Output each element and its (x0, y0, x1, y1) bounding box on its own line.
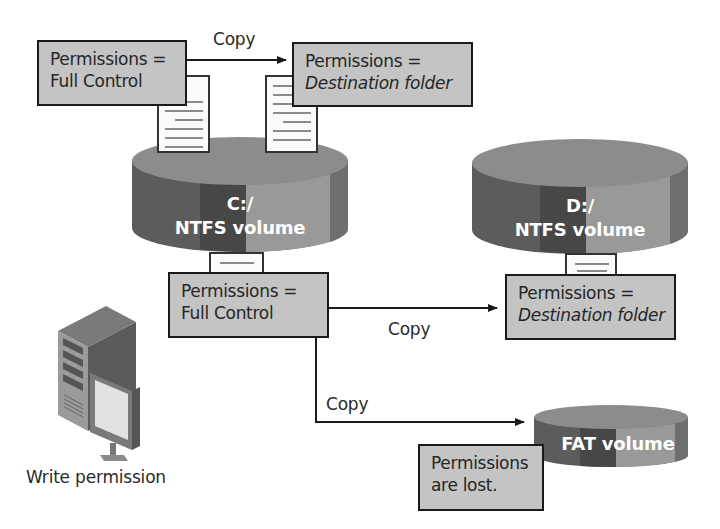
copy-top-label: Copy (213, 29, 255, 49)
computer-caption: Write permission (26, 467, 166, 487)
source-permissions-top-box: Permissions = Full Control (37, 40, 187, 106)
volume-c-label: C:/ NTFS volume (132, 192, 348, 240)
dest-permissions-d-box: Permissions = Destination folder (505, 274, 676, 340)
copy-to-d-label: Copy (388, 319, 430, 339)
dest-permissions-top-box: Permissions = Destination folder (292, 42, 473, 107)
volume-fat-label: FAT volume (548, 432, 688, 456)
volume-d-label: D:/ NTFS volume (472, 194, 688, 242)
source-permissions-mid-box: Permissions = Full Control (168, 272, 329, 338)
fat-result-box: Permissions are lost. (418, 444, 544, 511)
copy-to-fat-label: Copy (326, 394, 368, 414)
computer-icon (58, 306, 140, 461)
